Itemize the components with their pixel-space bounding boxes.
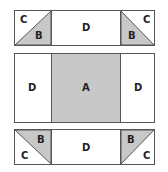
middle-left-rect: D bbox=[14, 53, 52, 123]
label-d: D bbox=[134, 83, 142, 93]
bottom-left-square: B C bbox=[14, 129, 52, 165]
label-d: D bbox=[28, 83, 36, 93]
label-c: C bbox=[20, 15, 27, 25]
label-b: B bbox=[37, 135, 45, 145]
label-d: D bbox=[82, 23, 90, 33]
bottom-right-square: B C bbox=[120, 129, 155, 165]
top-right-square: C B bbox=[120, 10, 155, 46]
top-center-rect: D bbox=[51, 10, 121, 46]
label-a: A bbox=[82, 83, 90, 93]
label-b: B bbox=[35, 31, 43, 41]
label-c: C bbox=[143, 15, 150, 25]
top-left-square: C B bbox=[14, 10, 52, 46]
label-b: B bbox=[128, 31, 136, 41]
label-d: D bbox=[82, 143, 90, 153]
label-c: C bbox=[143, 151, 150, 161]
bottom-row: B C D B C bbox=[14, 129, 155, 165]
bottom-center-rect: D bbox=[51, 129, 121, 165]
middle-row: D A D bbox=[14, 53, 155, 123]
label-b: B bbox=[127, 135, 135, 145]
label-c: C bbox=[21, 151, 28, 161]
middle-right-rect: D bbox=[120, 53, 155, 123]
center-square: A bbox=[51, 53, 121, 123]
top-row: C B D C B bbox=[14, 10, 155, 46]
